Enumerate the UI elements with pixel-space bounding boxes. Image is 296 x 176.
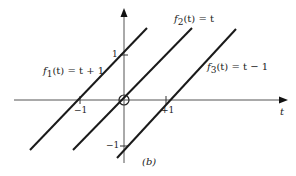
line-f3 xyxy=(117,29,236,158)
tick-label-t-plus-1: +1 xyxy=(161,106,174,115)
tick-label-y-minus-1: −1 xyxy=(106,141,119,150)
t-axis-label: t xyxy=(280,107,284,117)
diagram-figure: f1(t) = t + 1 f2(t) = t f3(t) = t − 1 −1… xyxy=(0,0,296,176)
t-axis-arrow-icon xyxy=(279,97,288,104)
t-axis-label-text: t xyxy=(280,106,284,117)
label-f2-rest: (t) = t xyxy=(183,13,214,24)
tick-label-t-minus-1: −1 xyxy=(74,106,87,115)
label-f1: f1(t) = t + 1 xyxy=(43,66,104,79)
diagram-canvas xyxy=(0,0,296,176)
figure-caption: (b) xyxy=(142,157,156,167)
y-axis-arrow-icon xyxy=(121,8,128,17)
label-f1-rest: (t) = t + 1 xyxy=(52,65,104,76)
label-f2: f2(t) = t xyxy=(174,14,214,27)
tick-label-y-plus-1: 1 xyxy=(112,50,118,59)
figure-caption-text: (b) xyxy=(142,156,156,167)
label-f3: f3(t) = t − 1 xyxy=(207,62,268,75)
line-f1 xyxy=(30,28,147,150)
line-f2 xyxy=(73,28,192,150)
label-f3-rest: (t) = t − 1 xyxy=(216,61,268,72)
